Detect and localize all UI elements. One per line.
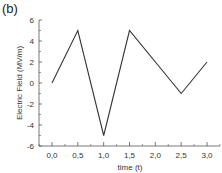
y-tick-label: 6 <box>30 16 35 25</box>
x-axis-title: time (t) <box>118 163 143 172</box>
x-tick-label: 1,5 <box>124 151 136 160</box>
x-axis-ticks: 0,00,51,01,52,02,53,0 <box>39 142 220 160</box>
y-tick-label: -2 <box>27 100 35 109</box>
y-axis-ticks: -6-4-20246 <box>27 16 42 151</box>
x-tick-label: 1,0 <box>98 151 110 160</box>
x-tick-label: 2,5 <box>176 151 188 160</box>
series-line <box>52 31 207 136</box>
y-tick-label: 4 <box>30 37 35 46</box>
line-chart: -6-4-20246 0,00,51,01,52,02,53,0 time (t… <box>0 0 222 173</box>
y-axis-title: Electric Field (MV/m) <box>15 46 24 121</box>
x-tick-label: 0,5 <box>72 151 84 160</box>
chart-axes <box>39 20 220 146</box>
y-tick-label: -4 <box>27 121 35 130</box>
y-tick-label: 2 <box>30 58 35 67</box>
x-tick-label: 0,0 <box>46 151 58 160</box>
x-tick-label: 2,0 <box>150 151 162 160</box>
y-tick-label: 0 <box>30 79 35 88</box>
x-tick-label: 3,0 <box>201 151 213 160</box>
data-series <box>52 31 207 136</box>
y-tick-label: -6 <box>27 142 35 151</box>
